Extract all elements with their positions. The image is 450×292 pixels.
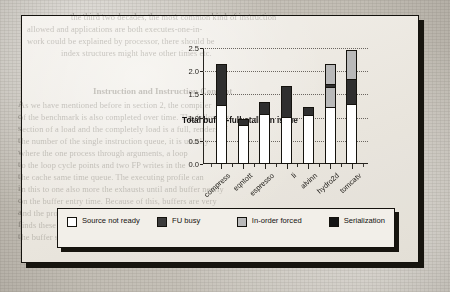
chart-legend: Source not readyFU busyIn-order forcedSe…: [57, 208, 395, 248]
bar-segment-in-order-forced: [325, 87, 336, 108]
bar-compress[interactable]: [216, 65, 227, 164]
y-axis-tick-label: 1.0: [188, 113, 199, 122]
bar-segment-serialization: [281, 86, 292, 117]
bar-alvinn[interactable]: [303, 108, 314, 164]
x-tick-mark-minor: [232, 164, 233, 167]
legend-swatch-in-order-forced: [237, 217, 247, 227]
bar-hydro2d[interactable]: [325, 65, 336, 164]
bar-espresso[interactable]: [259, 103, 270, 164]
bar-segment-serialization: [346, 79, 357, 104]
legend-label-serialization: Serialization: [344, 216, 385, 227]
x-tick-mark-minor: [341, 164, 342, 167]
legend-label-source-not-ready: Source not ready: [82, 216, 140, 227]
bar-segment-in-order-forced-top: [325, 64, 336, 85]
legend-label-fu-busy: FU busy: [172, 216, 200, 227]
x-tick-mark-minor: [319, 164, 320, 167]
legend-item-serialization[interactable]: Serialization: [329, 216, 385, 227]
bar-segment-serialization: [216, 64, 227, 105]
legend-swatch-source-not-ready: [67, 217, 77, 227]
legend-item-fu-busy[interactable]: FU busy: [157, 216, 237, 227]
y-axis-tick-label: 2.5: [188, 44, 199, 53]
bar-segment-source-not-ready: [216, 105, 227, 164]
plot-area: Total buffer-full-stalls in issue 0.00.5…: [177, 48, 389, 178]
bar-series-group: [203, 48, 368, 164]
bar-tomcatv[interactable]: [346, 51, 357, 164]
bar-segment-in-order-forced-top: [346, 50, 357, 80]
bar-segment-source-not-ready: [346, 104, 357, 164]
bar-li[interactable]: [281, 87, 292, 164]
y-axis-tick-label: 1.5: [188, 90, 199, 99]
bar-segment-source-not-ready: [238, 125, 249, 164]
y-axis-tick-label: 2.0: [188, 67, 199, 76]
legend-label-in-order-forced: In-order forced: [252, 216, 302, 227]
bar-segment-source-not-ready: [259, 114, 270, 164]
figure-frame: the third two decades, the most common k…: [21, 15, 419, 263]
x-tick-mark: [265, 164, 266, 169]
chart-axes: 0.00.51.01.52.02.5 compresseqntottespres…: [203, 48, 368, 164]
legend-swatch-fu-busy: [157, 217, 167, 227]
bar-segment-source-not-ready: [281, 117, 292, 164]
x-tick-mark-minor: [363, 164, 364, 167]
x-tick-mark: [221, 164, 222, 169]
bar-segment-source-not-ready: [303, 115, 314, 164]
y-axis-tick-label: 0.5: [188, 136, 199, 145]
legend-swatch-serialization: [329, 217, 339, 227]
x-tick-mark: [287, 164, 288, 169]
x-tick-mark-minor: [211, 164, 212, 167]
x-tick-mark-minor: [297, 164, 298, 167]
legend-item-in-order-forced[interactable]: In-order forced: [237, 216, 329, 227]
x-tick-mark: [352, 164, 353, 169]
bar-segment-serialization: [303, 107, 314, 114]
x-tick-mark-minor: [254, 164, 255, 167]
x-tick-mark: [308, 164, 309, 169]
bar-segment-serialization: [259, 102, 270, 114]
legend-item-source-not-ready[interactable]: Source not ready: [67, 216, 157, 227]
y-axis-tick-label: 0.0: [188, 160, 199, 169]
bar-eqntott[interactable]: [238, 120, 249, 164]
bar-segment-source-not-ready: [325, 107, 336, 164]
x-tick-mark-minor: [276, 164, 277, 167]
x-tick-mark: [330, 164, 331, 169]
x-tick-mark: [243, 164, 244, 169]
y-tick-mark: [200, 164, 204, 165]
